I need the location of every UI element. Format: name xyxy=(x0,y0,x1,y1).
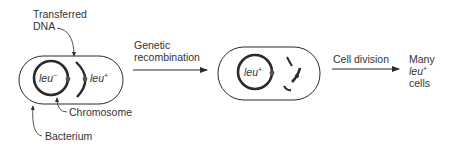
cell1-chromosome-gene-label: leu− xyxy=(39,72,57,84)
bacterium-cell-2 xyxy=(218,47,320,100)
recombined-leu-site-dot xyxy=(270,71,275,76)
degraded-fragment-dot xyxy=(295,74,299,78)
genetic-recombination-line2: recombination xyxy=(134,51,200,63)
degraded-fragment-1 xyxy=(287,57,292,66)
bacterium-label: Bacterium xyxy=(45,130,92,142)
degraded-fragment-3 xyxy=(284,86,291,90)
result-label: Many leu+ cells xyxy=(409,53,435,89)
gene-sup: + xyxy=(258,66,262,73)
gene-sup: − xyxy=(53,72,57,79)
result-line3: cells xyxy=(409,77,435,89)
chromosome-pointer xyxy=(57,98,67,112)
result-line1: Many xyxy=(409,53,435,65)
cell2-chromosome-gene-label: leu+ xyxy=(244,66,262,78)
chromosome-leu-site-dot xyxy=(66,77,71,82)
cell-division-label: Cell division xyxy=(333,53,389,65)
result-gene-name: leu xyxy=(409,65,423,77)
transferred-dna-pointer xyxy=(57,28,74,56)
bacterium-pointer xyxy=(33,106,42,136)
cell1-fragment-gene-label: leu+ xyxy=(90,72,108,84)
result-line2: leu+ xyxy=(409,65,435,77)
genetic-recombination-label: Genetic recombination xyxy=(134,39,200,63)
transferred-dna-label-line2: DNA xyxy=(33,20,87,32)
gene-name: leu xyxy=(39,72,53,84)
transferred-dna-label: Transferred DNA xyxy=(33,8,87,32)
gene-sup: + xyxy=(104,72,108,79)
gene-name: leu xyxy=(90,72,104,84)
transferred-dna-label-line1: Transferred xyxy=(33,8,87,20)
gene-name: leu xyxy=(244,66,258,78)
result-gene-sup: + xyxy=(423,65,427,72)
fragment-leu-site-dot xyxy=(83,77,88,82)
genetic-recombination-line1: Genetic xyxy=(134,39,200,51)
chromosome-label: Chromosome xyxy=(69,106,132,118)
